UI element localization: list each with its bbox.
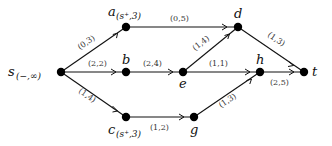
label-c-sub: (s⁺,3): [116, 129, 141, 139]
node-e: [179, 68, 187, 76]
edge-label-g-h: (1,3): [217, 92, 238, 110]
label-s: s: [8, 64, 15, 79]
edge-label-s-b: (2,2): [88, 59, 107, 68]
label-d: d: [234, 6, 242, 21]
edge-label-e-d: (1,4): [191, 34, 211, 53]
edge-label-b-e: (2,4): [143, 59, 162, 68]
edge-label-c-g: (1,2): [150, 123, 169, 132]
node-t: [300, 68, 308, 76]
edge-label-h-t: (2,5): [270, 78, 289, 87]
label-t: t: [312, 64, 318, 79]
edge-label-e-h: (1,1): [209, 59, 228, 68]
node-c: [122, 113, 130, 121]
flow-network-diagram: s (−,∞) a (s⁺,3) b c (s⁺,3) d e g h t (0…: [0, 0, 332, 146]
node-h: [256, 68, 264, 76]
label-c: c: [108, 122, 116, 137]
arrow-g-h-icon: [247, 79, 252, 84]
node-a: [122, 23, 130, 31]
label-a-sub: (s⁺,3): [116, 11, 141, 21]
edge-label-s-c: (1,4): [77, 86, 98, 104]
node-g: [190, 113, 198, 121]
label-h: h: [256, 52, 264, 67]
label-s-sub: (−,∞): [16, 71, 41, 81]
label-b: b: [122, 52, 130, 67]
label-g: g: [190, 122, 198, 137]
node-d: [234, 23, 242, 31]
node-s: [57, 68, 65, 76]
label-e: e: [179, 76, 187, 91]
node-b: [122, 68, 130, 76]
arrow-s-c-icon: [113, 106, 118, 112]
label-a: a: [108, 4, 116, 19]
edge-label-a-d: (0,5): [170, 14, 189, 23]
edge-label-d-t: (1,3): [266, 30, 287, 48]
